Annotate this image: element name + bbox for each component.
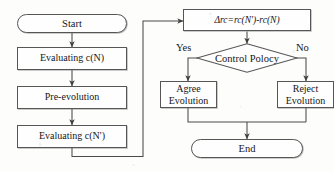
node-reject-evolution-label-line2: Evolution — [286, 95, 325, 107]
flowchart-canvas: Start Evaluating c(N) Pre-evolution Eval… — [0, 0, 334, 172]
node-reject-evolution[interactable]: Reject Evolution — [277, 81, 334, 108]
node-evaluating-c-n-label: Evaluating c(N) — [40, 53, 104, 64]
node-evaluating-c-n-prime-label: Evaluating c(N') — [39, 131, 105, 142]
node-end[interactable]: End — [191, 139, 303, 158]
node-delta-rc[interactable]: Δrc=rc(N')-rc(N) — [183, 9, 311, 31]
node-start-label: Start — [62, 18, 82, 29]
node-control-policy-label: Control Polocy — [215, 53, 279, 64]
edge-agree-to-merge — [188, 108, 306, 122]
node-evaluating-c-n-prime[interactable]: Evaluating c(N') — [17, 125, 127, 148]
edge-label-yes: Yes — [176, 42, 191, 53]
node-reject-evolution-label-line1: Reject — [293, 83, 319, 95]
node-evaluating-c-n[interactable]: Evaluating c(N) — [17, 47, 127, 70]
node-start[interactable]: Start — [17, 14, 127, 33]
node-delta-rc-label: Δrc=rc(N')-rc(N) — [214, 15, 279, 25]
node-agree-evolution-label-line1: Agree — [176, 83, 200, 95]
node-pre-evolution[interactable]: Pre-evolution — [17, 86, 127, 109]
node-end-label: End — [239, 143, 256, 154]
node-agree-evolution-label-line2: Evolution — [169, 95, 208, 107]
edge-label-no: No — [296, 42, 309, 53]
node-agree-evolution[interactable]: Agree Evolution — [160, 81, 217, 108]
node-control-policy[interactable]: Control Polocy — [196, 43, 298, 73]
node-pre-evolution-label: Pre-evolution — [45, 92, 99, 103]
